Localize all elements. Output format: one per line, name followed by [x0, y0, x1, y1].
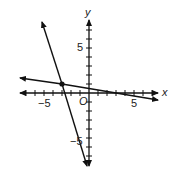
origin-label: O — [79, 95, 88, 107]
coordinate-plane: x y O −5 5 5 −5 — [0, 0, 176, 174]
y-tick-label-neg5: −5 — [70, 135, 83, 147]
shallow-line — [20, 78, 62, 84]
intersection-point — [59, 81, 64, 86]
x-tick-label-neg5: −5 — [38, 97, 51, 109]
y-tick-label-5: 5 — [77, 41, 83, 53]
steep-line — [42, 22, 62, 84]
shallow-line — [62, 84, 158, 100]
y-axis-label: y — [84, 6, 92, 18]
x-axis-label: x — [161, 86, 168, 98]
x-tick-label-5: 5 — [131, 97, 137, 109]
